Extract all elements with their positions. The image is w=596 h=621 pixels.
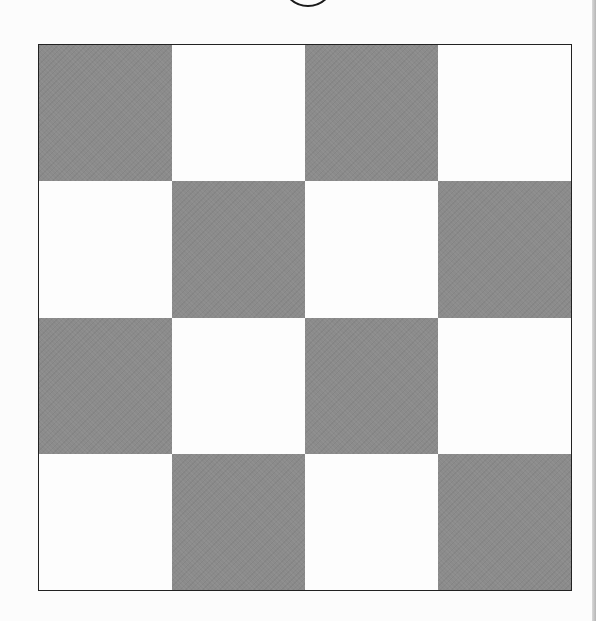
board-cell-r4-c4-dark [438, 454, 571, 590]
board-cell-r4-c3-light [305, 454, 438, 590]
board-cell-r4-c1-light [39, 454, 172, 590]
board-cell-r1-c2-light [172, 45, 305, 181]
checkerboard-grid [38, 44, 572, 591]
board-cell-r3-c3-dark [305, 318, 438, 454]
board-cell-r3-c2-light [172, 318, 305, 454]
board-cell-r2-c4-dark [438, 181, 571, 317]
board-cell-r1-c1-dark [39, 45, 172, 181]
page-edge [592, 0, 596, 621]
board-cell-r2-c3-light [305, 181, 438, 317]
board-cell-r3-c4-light [438, 318, 571, 454]
circle-marker-icon [281, 0, 335, 7]
board-cell-r4-c2-dark [172, 454, 305, 590]
figure-canvas [0, 0, 596, 621]
board-cell-r2-c2-dark [172, 181, 305, 317]
board-cell-r1-c4-light [438, 45, 571, 181]
board-cell-r3-c1-dark [39, 318, 172, 454]
board-cell-r2-c1-light [39, 181, 172, 317]
board-cell-r1-c3-dark [305, 45, 438, 181]
